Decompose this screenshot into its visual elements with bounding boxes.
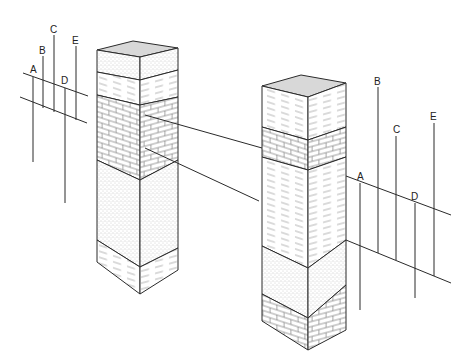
- label-A-left: A: [30, 64, 37, 75]
- right-well-labels: A B C D E: [357, 76, 437, 202]
- label-A-right: A: [357, 171, 364, 182]
- diagram-canvas: A B C D E A B C D E: [0, 0, 466, 358]
- label-B-left: B: [39, 45, 46, 56]
- left-column: [97, 41, 178, 294]
- label-B-right: B: [374, 76, 381, 87]
- label-C-right: C: [393, 124, 400, 135]
- label-D-right: D: [411, 191, 418, 202]
- label-D-left: D: [61, 75, 68, 86]
- right-column: [262, 75, 346, 350]
- left-well-group: [20, 35, 88, 203]
- label-C-left: C: [50, 24, 57, 35]
- stratigraphy-diagram: A B C D E A B C D E: [0, 0, 466, 358]
- label-E-right: E: [430, 111, 437, 122]
- label-E-left: E: [72, 35, 79, 46]
